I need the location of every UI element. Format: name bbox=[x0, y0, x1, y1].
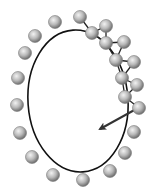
free-sphere bbox=[29, 30, 42, 43]
diagram-canvas bbox=[0, 0, 155, 190]
chain-sphere bbox=[100, 37, 113, 50]
free-sphere bbox=[26, 151, 39, 164]
free-sphere bbox=[14, 127, 27, 140]
free-sphere bbox=[74, 11, 87, 24]
free-sphere bbox=[19, 47, 32, 60]
sphere-ring-diagram bbox=[0, 0, 155, 190]
chain-sphere bbox=[133, 102, 146, 115]
chain-sphere bbox=[116, 72, 129, 85]
chain-sphere bbox=[86, 27, 99, 40]
chain-sphere bbox=[128, 56, 141, 69]
free-sphere bbox=[12, 72, 25, 85]
free-sphere bbox=[47, 169, 60, 182]
free-sphere bbox=[128, 126, 141, 139]
chain-sphere bbox=[119, 91, 132, 104]
chain-sphere bbox=[131, 79, 144, 92]
chain-sphere bbox=[100, 20, 113, 33]
spheres bbox=[11, 11, 146, 187]
free-sphere bbox=[77, 174, 90, 187]
chain-sphere bbox=[118, 36, 131, 49]
free-sphere bbox=[11, 99, 24, 112]
chain-sphere bbox=[110, 54, 123, 67]
free-sphere bbox=[119, 147, 132, 160]
ellipse-curve bbox=[23, 27, 133, 176]
free-sphere bbox=[49, 16, 62, 29]
elliptical-path bbox=[23, 27, 133, 176]
free-sphere bbox=[104, 165, 117, 178]
